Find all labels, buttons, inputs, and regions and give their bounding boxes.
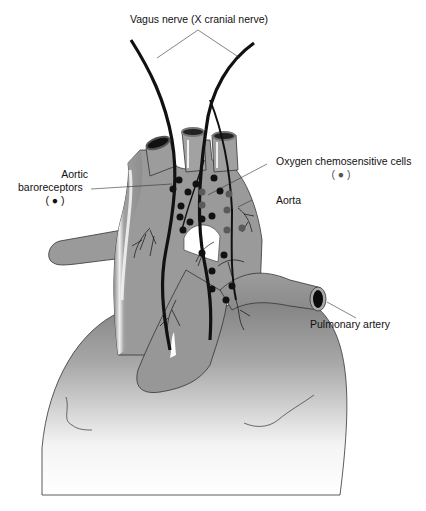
- aorta-label: Aorta: [276, 194, 301, 207]
- pulmonary-artery-label: Pulmonary artery: [310, 318, 390, 331]
- vessel-opening: [213, 132, 235, 140]
- diagram-canvas: [0, 0, 426, 511]
- chemosensitive-label: Oxygen chemosensitive cells: [276, 155, 411, 168]
- vagus-nerve-label: Vagus nerve (X cranial nerve): [130, 13, 268, 26]
- vessel-opening: [182, 128, 204, 136]
- baroreceptors-label-line2: baroreceptors: [18, 181, 83, 194]
- branch-vessel-left: [49, 230, 125, 265]
- chemosensitive-legend-symbol: ( ● ): [326, 168, 356, 181]
- baroreceptors-label-line1: Aortic: [40, 168, 88, 181]
- baroreceptors-legend-symbol: ( ● ): [40, 194, 70, 207]
